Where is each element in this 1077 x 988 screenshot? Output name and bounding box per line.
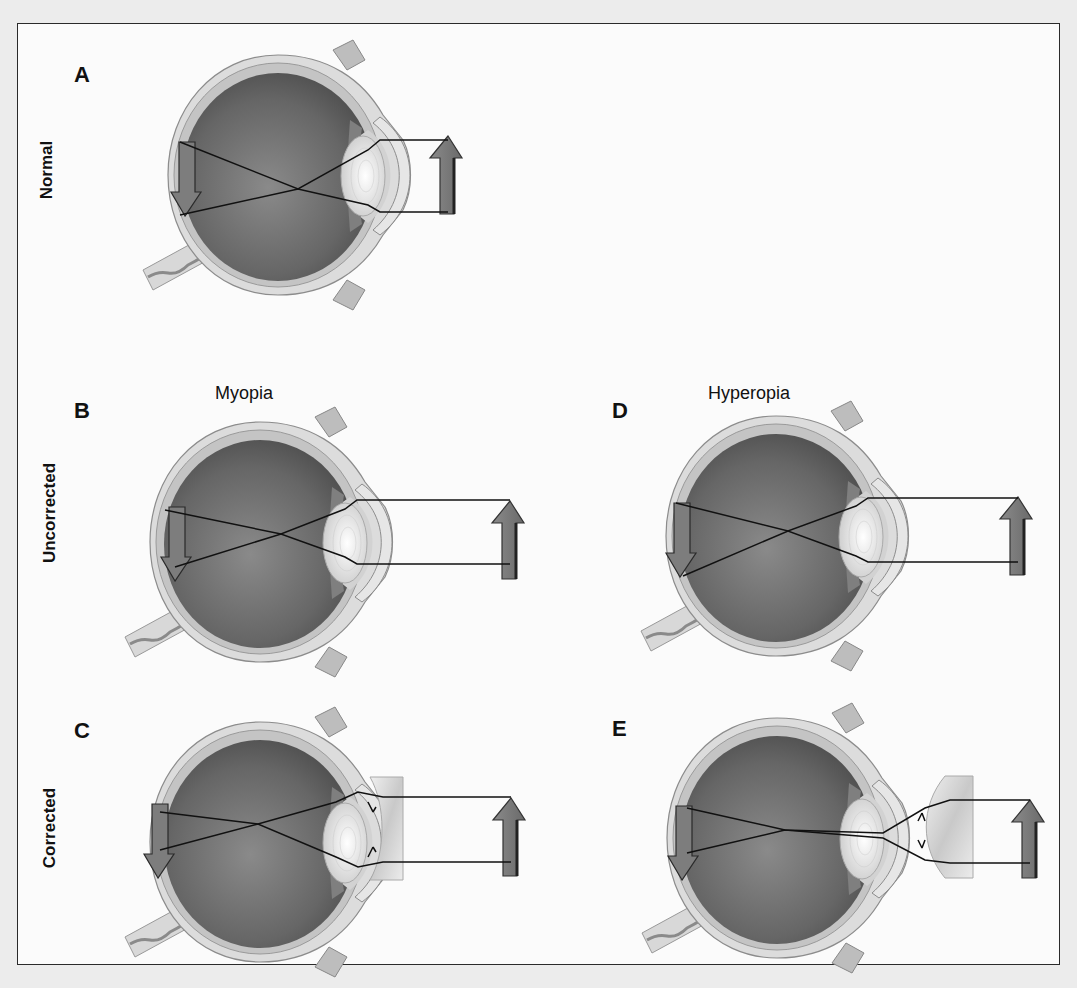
condition-title-hyperopia: Hyperopia <box>708 383 790 404</box>
row-label-uncorrected: Uncorrected <box>40 453 60 573</box>
panel-letter-d: D <box>612 398 628 424</box>
panel-letter-c: C <box>74 718 90 744</box>
eye-diagram-myopia-uncorrected <box>95 412 555 692</box>
panel-letter-a: A <box>74 62 90 88</box>
eye-diagram-hyperopia-corrected <box>625 708 1065 988</box>
eye-diagram-normal <box>118 40 538 320</box>
row-label-normal: Normal <box>37 135 57 205</box>
eye-diagram-hyperopia-uncorrected <box>628 408 1068 688</box>
panel-letter-b: B <box>74 398 90 424</box>
row-label-corrected: Corrected <box>40 778 60 878</box>
condition-title-myopia: Myopia <box>215 383 273 404</box>
eye-diagram-myopia-corrected <box>98 712 558 988</box>
